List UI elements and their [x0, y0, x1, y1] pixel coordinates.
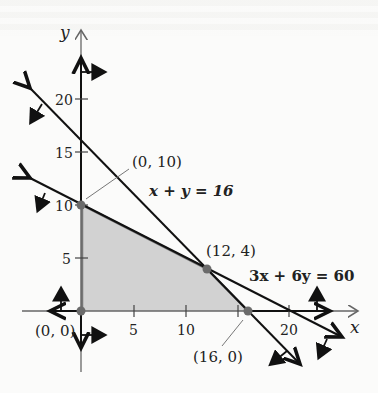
y-tick-15: 15 — [55, 145, 73, 161]
label-origin: (0, 0) — [35, 322, 75, 340]
y-tick-20: 20 — [55, 92, 73, 108]
y-tick-10: 10 — [55, 198, 73, 214]
label-16-0: (16, 0) — [193, 348, 243, 366]
x-tick-5: 5 — [129, 322, 138, 338]
vertex-12-4 — [203, 265, 212, 274]
vertex-0-10 — [77, 201, 86, 210]
label-12-4: (12, 4) — [206, 242, 256, 260]
lp-diagram: 5 10 20 5 10 15 20 y x (0, 0) (0, 10) (1… — [0, 0, 378, 393]
x-axis-label: x — [350, 317, 360, 337]
x-tick-10: 10 — [177, 322, 195, 338]
direction-arrows — [31, 72, 327, 364]
y-tick-5: 5 — [62, 251, 71, 267]
vertex-origin — [77, 307, 86, 316]
label-eq-1: x + y = 16 — [148, 182, 234, 200]
label-0-10: (0, 10) — [132, 153, 182, 171]
x-tick-20: 20 — [280, 322, 298, 338]
vertex-16-0 — [244, 307, 253, 316]
y-axis-label: y — [59, 22, 70, 42]
label-eq-2: 3x + 6y = 60 — [249, 267, 354, 285]
